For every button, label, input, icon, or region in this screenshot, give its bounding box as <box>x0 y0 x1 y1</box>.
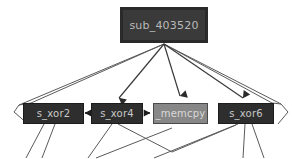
edge-root-to-xor6-outer <box>164 44 272 103</box>
graph-node-s-xor4[interactable]: s_xor4 <box>91 103 143 124</box>
node-label: s_xor2 <box>37 109 71 119</box>
edge-xor2-down-b <box>42 124 55 158</box>
node-label: s_xor6 <box>229 109 263 119</box>
node-label: _memcpy <box>156 109 206 119</box>
edge-cross-mid <box>172 125 236 152</box>
edge-xor4-down-b <box>118 124 172 152</box>
edge-root-to-farleft-hull <box>19 44 164 105</box>
edge-root-to-xor4 <box>119 44 164 98</box>
graph-node-memcpy[interactable]: _memcpy <box>153 103 208 124</box>
graph-node-sub-403520[interactable]: sub_403520 <box>120 7 208 43</box>
edge-xor6-down-c <box>252 124 264 158</box>
edge-xor2-down-a <box>26 124 44 158</box>
edge-hull-right <box>272 103 288 124</box>
edge-root-to-xor6 <box>164 44 243 98</box>
edge-root-to-farright-hull <box>164 44 281 104</box>
graph-node-s-xor6[interactable]: s_xor6 <box>218 103 274 124</box>
node-label: sub_403520 <box>129 20 198 31</box>
call-graph-canvas[interactable]: sub_403520 s_xor2 s_xor4 _memcpy s_xor6 <box>0 0 292 159</box>
node-label: s_xor4 <box>100 109 134 119</box>
graph-node-s-xor2[interactable]: s_xor2 <box>23 103 84 124</box>
edge-xor6-down-b <box>243 124 245 158</box>
